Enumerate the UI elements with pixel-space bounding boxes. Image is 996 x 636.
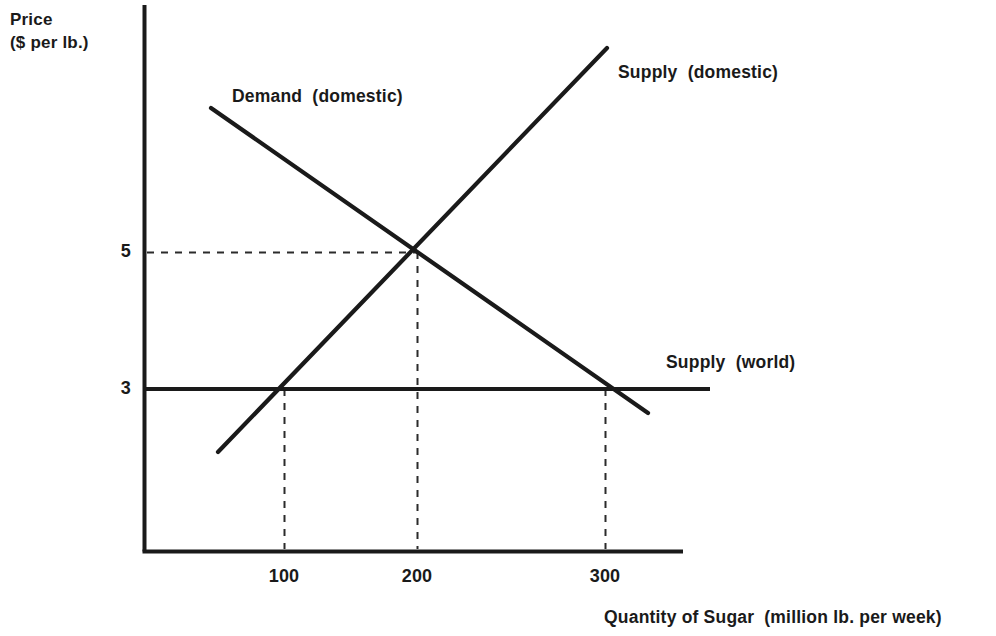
y-axis-title-line1: Price	[10, 10, 53, 29]
y-tick-label-5: 5	[105, 241, 131, 262]
supply-world-curve-label: Supply (world)	[666, 352, 795, 373]
y-tick-label-3: 3	[105, 378, 131, 399]
x-tick-label-300: 300	[577, 566, 633, 587]
x-tick-label-200: 200	[389, 566, 445, 587]
y-axis-title: Price($ per lb.)	[10, 8, 89, 54]
demand-domestic-curve	[211, 108, 648, 413]
y-axis-title-line2: ($ per lb.)	[10, 33, 89, 52]
supply-domestic-curve	[218, 48, 607, 452]
x-tick-label-100: 100	[256, 566, 312, 587]
supply-demand-figure: Price($ per lb.) Quantity of Sugar (mill…	[0, 0, 996, 636]
demand-curve-label: Demand (domestic)	[232, 86, 403, 107]
chart-canvas	[0, 0, 996, 636]
supply-domestic-curve-label: Supply (domestic)	[618, 62, 778, 83]
x-axis-title: Quantity of Sugar (million lb. per week)	[604, 607, 942, 628]
